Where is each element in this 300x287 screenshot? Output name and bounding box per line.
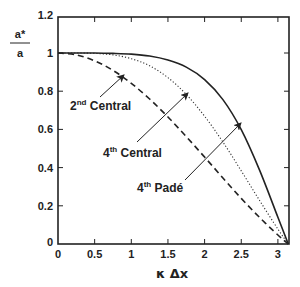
axis-ticks (58, 17, 289, 244)
y-tick-label: 1 (47, 47, 53, 59)
label-4th-pade: 4th Padé (137, 180, 184, 195)
chart: 00.511.522.5300.20.40.60.811.2 a* a κ Δx… (0, 0, 300, 287)
y-label-denominator: a (17, 47, 24, 59)
x-tick-label: 2 (202, 248, 208, 260)
x-tick-label: 0.5 (87, 248, 102, 260)
x-tick-label: 1.5 (160, 248, 175, 260)
y-label-numerator: a* (15, 28, 26, 40)
y-tick-label: 0.8 (38, 85, 53, 97)
plot-frame (58, 17, 289, 244)
series-4th-central (58, 53, 288, 244)
y-tick-label: 0.6 (38, 123, 53, 135)
y-tick-label: 0.2 (38, 200, 53, 212)
y-tick-label: 0.4 (38, 162, 54, 174)
x-tick-label: 1 (128, 248, 134, 260)
y-tick-label: 1.2 (38, 9, 53, 21)
arrow-2nd-central (100, 75, 124, 97)
label-2nd-central: 2nd Central (70, 98, 131, 113)
y-tick-label: 0 (47, 236, 53, 248)
y-axis-label: a* a (10, 28, 30, 59)
x-tick-label: 0 (55, 248, 61, 260)
x-tick-label: 3 (275, 248, 281, 260)
arrow-4th-pade (185, 123, 241, 180)
arrow-4th-central (137, 93, 188, 142)
x-axis-label: κ Δx (156, 266, 189, 281)
label-4th-central: 4th Central (103, 145, 162, 160)
x-tick-label: 2.5 (234, 248, 249, 260)
